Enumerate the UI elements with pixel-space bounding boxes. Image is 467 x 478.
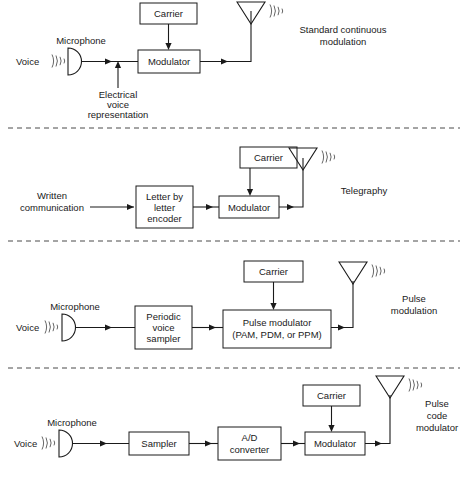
sampler-label-line-3: sampler	[147, 333, 181, 344]
modulator-label: Modulator	[228, 202, 270, 213]
antenna-icon	[376, 376, 404, 398]
sound-wave-icon	[45, 321, 58, 334]
microphone-label: Microphone	[56, 35, 106, 46]
carrier-label: Carrier	[259, 266, 288, 277]
radio-wave-icon	[372, 265, 385, 278]
output-label-line-1: Standard continuous	[299, 24, 386, 35]
pulse-modulator-label-line-1: Pulse modulator	[243, 317, 312, 328]
output-label-line-1: Telegraphy	[341, 185, 388, 196]
output-label-line-2: modulation	[391, 305, 437, 316]
sound-wave-icon	[42, 437, 55, 450]
carrier-label: Carrier	[254, 152, 283, 163]
carrier-label: Carrier	[317, 390, 346, 401]
voice-source-label: Voice	[14, 438, 37, 449]
arrowhead-icon	[165, 43, 171, 50]
arrowhead-icon	[338, 324, 345, 330]
antenna-icon	[339, 262, 367, 284]
arrowhead-icon	[375, 440, 382, 446]
sampler-label: Sampler	[141, 438, 176, 449]
encoder-label-line-2: letter	[154, 202, 175, 213]
panel-pulse-code-modulation: Voice Microphone Sampler A/D converter C…	[14, 376, 458, 460]
written-source-line-2: communication	[20, 202, 84, 213]
radio-wave-icon	[409, 379, 422, 392]
encoder-label-line-1: Letter by	[146, 191, 183, 202]
annotation-line-3: representation	[88, 109, 149, 120]
arrowhead-icon	[127, 204, 134, 210]
sound-wave-icon	[52, 55, 65, 68]
arrowhead-icon	[105, 58, 112, 64]
wire-modulator-to-antenna	[365, 395, 390, 444]
output-label-line-3: modulator	[416, 422, 458, 433]
ad-converter-label-line-1: A/D	[242, 432, 258, 443]
pulse-modulator-label-line-2: (PAM, PDM, or PPM)	[232, 329, 322, 340]
voice-source-label: Voice	[16, 322, 39, 333]
arrowhead-icon	[270, 303, 276, 310]
arrowhead-icon	[105, 324, 112, 330]
written-source-line-1: Written	[37, 190, 67, 201]
panel-telegraphy: Written communication Letter by letter e…	[20, 147, 387, 228]
arrowhead-icon	[206, 204, 213, 210]
modulator-label: Modulator	[314, 438, 356, 449]
encoder-label-line-3: encoder	[147, 213, 181, 224]
microphone-icon	[59, 430, 73, 457]
output-label-line-2: modulation	[320, 36, 366, 47]
arrowhead-icon	[100, 440, 107, 446]
output-label-line-2: code	[427, 410, 448, 421]
microphone-label: Microphone	[47, 417, 97, 428]
radio-wave-icon	[322, 151, 335, 164]
arrowhead-icon	[209, 324, 216, 330]
modulator-label: Modulator	[148, 56, 190, 67]
sampler-label-line-1: Periodic	[146, 311, 181, 322]
arrowhead-icon	[293, 440, 300, 446]
panel-standard-continuous: Voice Microphone Electrical voice repres…	[16, 2, 387, 120]
arrowhead-icon	[287, 204, 294, 210]
wire-modulator-to-antenna	[331, 281, 353, 328]
ad-converter-label-line-2: converter	[230, 444, 270, 455]
arrowhead-icon	[221, 58, 228, 64]
voice-source-label: Voice	[16, 56, 39, 67]
output-label-line-1: Pulse	[425, 398, 449, 409]
arrowhead-icon	[247, 189, 253, 196]
radio-wave-icon	[270, 5, 283, 18]
microphone-label: Microphone	[50, 301, 100, 312]
arrowhead-icon	[328, 425, 334, 432]
panel-pulse-modulation: Voice Microphone Periodic voice sampler …	[16, 261, 437, 349]
wire-modulator-to-antenna	[200, 11, 251, 62]
sampler-label-line-2: voice	[152, 322, 174, 333]
modulation-block-diagram: Voice Microphone Electrical voice repres…	[0, 0, 467, 478]
output-label-line-1: Pulse	[402, 293, 426, 304]
microphone-icon	[68, 48, 82, 75]
carrier-label: Carrier	[154, 8, 183, 19]
arrowhead-icon	[205, 440, 212, 446]
microphone-icon	[62, 314, 76, 341]
